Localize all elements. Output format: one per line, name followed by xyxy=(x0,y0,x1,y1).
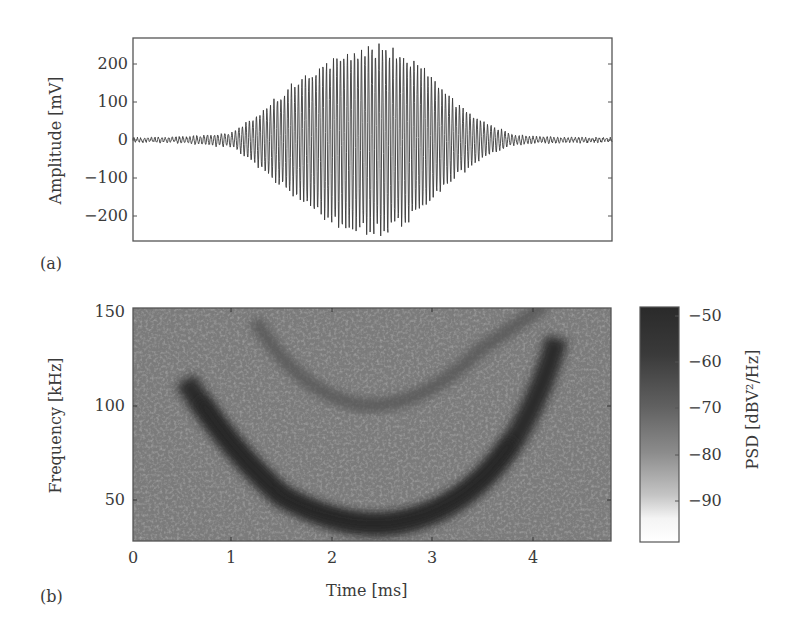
ytick-label: 150 xyxy=(94,304,125,320)
panel-b-ytick-labels: 150 100 50 xyxy=(60,0,125,629)
colorbar-tick-label: −90 xyxy=(688,493,722,509)
panel-b-label: (b) xyxy=(40,587,63,606)
panel-b-xlabel: Time [ms] xyxy=(326,581,407,600)
xtick-label: 2 xyxy=(327,550,337,566)
ytick-label: 50 xyxy=(105,492,125,508)
spectrogram-image xyxy=(133,305,611,541)
xtick-label: 3 xyxy=(427,550,437,566)
xtick-label: 0 xyxy=(128,550,138,566)
colorbar-tick-label: −80 xyxy=(688,447,722,463)
colorbar-tick-label: −70 xyxy=(688,400,722,416)
colorbar-label: PSD [dBV²/Hz] xyxy=(743,340,762,480)
ytick-label: 100 xyxy=(94,398,125,414)
xtick-label: 1 xyxy=(226,550,236,566)
colorbar-tick-label: −50 xyxy=(688,308,722,324)
colorbar xyxy=(640,307,679,542)
colorbar-tick-label: −60 xyxy=(688,354,722,370)
xtick-label: 4 xyxy=(528,550,538,566)
panel-b-ylabel: Frequency [kHz] xyxy=(46,353,65,499)
